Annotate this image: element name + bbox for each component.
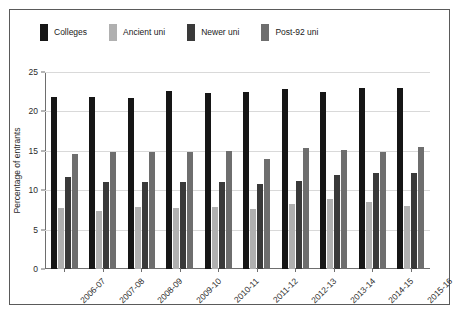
chart-legend: CollegesAncient uniNewer uniPost-92 uni [40, 22, 340, 42]
x-axis-tick-mark [411, 268, 412, 272]
bar-group [45, 72, 84, 269]
bar-group [392, 72, 431, 269]
bar-group [315, 72, 354, 269]
legend-label: Ancient uni [123, 28, 165, 37]
bar[interactable] [257, 184, 263, 269]
bar[interactable] [212, 207, 218, 269]
x-axis-tick-mark [218, 268, 219, 272]
x-axis-tick-label: 2011-12 [271, 276, 300, 305]
bar-group [353, 72, 392, 269]
bar[interactable] [205, 93, 211, 269]
legend-entry[interactable]: Ancient uni [109, 24, 165, 41]
bar[interactable] [173, 208, 179, 269]
x-axis-tick-label: 2012-13 [309, 276, 338, 305]
x-axis-tick-mark [103, 268, 104, 272]
bar[interactable] [289, 204, 295, 269]
bar[interactable] [187, 152, 193, 269]
bar[interactable] [110, 152, 116, 269]
legend-label: Post-92 uni [275, 28, 318, 37]
x-axis-tick-label: 2009-10 [194, 276, 223, 305]
bar[interactable] [89, 97, 95, 269]
bar[interactable] [327, 199, 333, 269]
x-axis-tick-mark [295, 268, 296, 272]
x-axis-tick-label: 2015-16 [425, 276, 454, 305]
legend-entry[interactable]: Newer uni [187, 24, 239, 41]
bar[interactable] [359, 88, 365, 269]
bar[interactable] [72, 154, 78, 269]
legend-swatch-icon [261, 24, 269, 41]
bar[interactable] [296, 181, 302, 269]
x-axis-tick-mark [257, 268, 258, 272]
bar[interactable] [380, 152, 386, 269]
legend-label: Newer uni [201, 28, 239, 37]
bar-group [238, 72, 277, 269]
x-axis-tick-label: 2008-09 [155, 276, 184, 305]
bar[interactable] [58, 208, 64, 269]
bar[interactable] [373, 173, 379, 269]
bar-group [199, 72, 238, 269]
bar[interactable] [135, 207, 141, 269]
bar[interactable] [65, 177, 71, 269]
bar[interactable] [166, 91, 172, 269]
bar[interactable] [243, 92, 249, 269]
bar[interactable] [103, 182, 109, 269]
bar[interactable] [397, 88, 403, 269]
legend-swatch-icon [187, 24, 195, 41]
bar[interactable] [142, 182, 148, 269]
bar[interactable] [96, 211, 102, 269]
bar-chart-figure: CollegesAncient uniNewer uniPost-92 uni … [0, 0, 459, 314]
bar-group [84, 72, 123, 269]
bar[interactable] [226, 151, 232, 269]
bar[interactable] [219, 182, 225, 269]
bar[interactable] [149, 152, 155, 269]
bar-group [276, 72, 315, 269]
legend-swatch-icon [40, 24, 48, 41]
x-axis-tick-label: 2006-07 [78, 276, 107, 305]
x-axis-tick-mark [334, 268, 335, 272]
bar[interactable] [128, 98, 134, 269]
bar[interactable] [180, 182, 186, 269]
x-axis-tick-label: 2014-15 [386, 276, 415, 305]
bar[interactable] [334, 175, 340, 269]
bar-group [122, 72, 161, 269]
legend-entry[interactable]: Post-92 uni [261, 24, 318, 41]
x-axis-tick-mark [141, 268, 142, 272]
legend-entry[interactable]: Colleges [40, 24, 87, 41]
bar-group [161, 72, 200, 269]
legend-swatch-icon [109, 24, 117, 41]
x-axis-tick-label: 2010-11 [232, 276, 261, 305]
bar[interactable] [404, 206, 410, 269]
x-axis-tick-mark [372, 268, 373, 272]
bar[interactable] [303, 148, 309, 269]
plot-area: 0510152025 [45, 72, 430, 269]
legend-label: Colleges [54, 28, 87, 37]
bar[interactable] [264, 159, 270, 269]
bar[interactable] [411, 173, 417, 269]
bar[interactable] [366, 202, 372, 269]
y-axis-title: Percentage of entrants [10, 72, 24, 269]
x-axis-tick-mark [64, 268, 65, 272]
x-axis-tick-label: 2013-14 [348, 276, 377, 305]
bar[interactable] [341, 150, 347, 269]
bar[interactable] [418, 147, 424, 269]
bar[interactable] [282, 89, 288, 269]
bar[interactable] [320, 92, 326, 269]
x-axis-tick-mark [180, 268, 181, 272]
x-axis-tick-label: 2007-08 [117, 276, 146, 305]
bar[interactable] [51, 97, 57, 269]
bar[interactable] [250, 209, 256, 269]
